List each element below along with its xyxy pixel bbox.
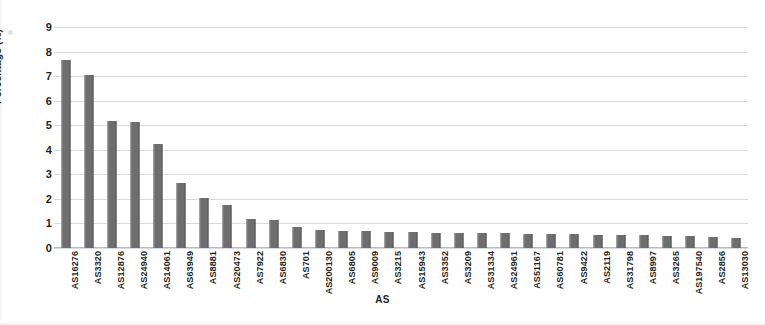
- bar-slot: [424, 27, 447, 248]
- y-axis-tick-label: 4: [46, 144, 52, 155]
- bar: [107, 121, 116, 248]
- bar-slot: [308, 27, 331, 248]
- y-axis-tick-label: 8: [46, 46, 52, 57]
- x-axis-tick-label: AS6830: [278, 251, 288, 284]
- y-axis-tick-label: 5: [46, 120, 52, 131]
- bar-slot: [216, 27, 239, 248]
- y-axis-tick-label: 9: [46, 22, 52, 33]
- bar: [454, 233, 463, 248]
- x-axis-tick-label: AS24940: [139, 251, 149, 289]
- bar: [385, 232, 394, 248]
- y-axis-tick-label: 0: [46, 243, 52, 254]
- bar-slot: [100, 27, 123, 248]
- x-axis-tick-label: AS60781: [555, 251, 565, 289]
- x-axis-tick-label: AS14061: [162, 251, 172, 289]
- bar-slot: [447, 27, 470, 248]
- bar-slot: [401, 27, 424, 248]
- bar-slot: [470, 27, 493, 248]
- bar-slot: [655, 27, 678, 248]
- bar-slot: [332, 27, 355, 248]
- bar-slot: [239, 27, 262, 248]
- bar: [84, 75, 93, 248]
- bar: [316, 230, 325, 248]
- x-axis-tick-label: AS51167: [532, 251, 542, 289]
- bar: [732, 238, 741, 248]
- bar: [431, 233, 440, 248]
- bar: [524, 234, 533, 248]
- y-axis-tick-label: 2: [46, 193, 52, 204]
- y-axis-tick-label: 3: [46, 169, 52, 180]
- bar: [154, 144, 163, 248]
- x-axis-tick-label: AS12876: [116, 251, 126, 289]
- bar-chart: Percentage (%) 0123456789 AS16276AS3320A…: [0, 0, 765, 325]
- bar: [501, 233, 510, 248]
- bar-slot: [563, 27, 586, 248]
- bar-slot: [517, 27, 540, 248]
- x-axis-tick-label: AS31334: [486, 251, 496, 289]
- x-axis-tick-label: AS13030: [740, 251, 750, 289]
- x-axis-tick-label: AS2856: [717, 251, 727, 284]
- bar-series: [54, 27, 748, 248]
- bar-slot: [632, 27, 655, 248]
- x-axis-tick-label: AS3215: [393, 251, 403, 284]
- bar-slot: [170, 27, 193, 248]
- bar-slot: [262, 27, 285, 248]
- bar: [477, 233, 486, 248]
- x-axis-tick-label: AS7922: [255, 251, 265, 284]
- x-axis-tick-label: AS3209: [463, 251, 473, 284]
- bar-slot: [355, 27, 378, 248]
- bar: [593, 235, 602, 249]
- bar: [616, 235, 625, 248]
- bar: [570, 234, 579, 248]
- bar-slot: [77, 27, 100, 248]
- x-axis-tick-label: AS3352: [440, 251, 450, 284]
- x-axis-tick-label: AS15943: [417, 251, 427, 289]
- y-axis-title: Percentage (%): [0, 29, 3, 104]
- x-axis-tick-label: AS16276: [70, 251, 80, 289]
- x-axis-tick-label: AS31798: [625, 251, 635, 289]
- bar: [686, 236, 695, 248]
- bar: [292, 227, 301, 248]
- bar: [362, 231, 371, 248]
- bar-slot: [586, 27, 609, 248]
- bar: [61, 60, 70, 248]
- x-axis-tick-label: AS3320: [93, 251, 103, 284]
- bar: [663, 236, 672, 248]
- x-axis-tick-label: AS8881: [208, 251, 218, 284]
- bar-slot: [494, 27, 517, 248]
- bar: [269, 220, 278, 248]
- bar: [246, 219, 255, 248]
- x-axis-tick-label: AS8997: [648, 251, 658, 284]
- bar: [547, 234, 556, 248]
- bar-slot: [378, 27, 401, 248]
- bar: [200, 198, 209, 248]
- gridline: [54, 248, 748, 249]
- x-axis-tick-label: AS9422: [579, 251, 589, 284]
- x-axis-tick-label: AS200130: [324, 251, 334, 294]
- bar-slot: [123, 27, 146, 248]
- x-axis-title: AS: [0, 294, 765, 305]
- bar-slot: [679, 27, 702, 248]
- bar: [339, 231, 348, 248]
- bar: [709, 237, 718, 248]
- x-axis-tick-label: AS701: [301, 251, 311, 279]
- bar: [408, 232, 417, 248]
- x-axis-tick-label: AS6805: [347, 251, 357, 284]
- x-axis-tick-label: AS24961: [509, 251, 519, 289]
- bar: [177, 183, 186, 248]
- x-axis-tick-label: AS63949: [185, 251, 195, 289]
- bar: [223, 205, 232, 248]
- bar: [639, 235, 648, 248]
- x-axis-tick-label: AS2119: [602, 251, 612, 284]
- y-axis-tick-label: 6: [46, 95, 52, 106]
- bar-slot: [725, 27, 748, 248]
- scan-artifact: [8, 30, 13, 35]
- y-axis-tick-labels: 0123456789: [30, 27, 52, 248]
- bar-slot: [54, 27, 77, 248]
- x-axis-tick-label: AS20473: [232, 251, 242, 289]
- x-axis-tick-label: AS3265: [671, 251, 681, 284]
- y-axis-tick-label: 1: [46, 218, 52, 229]
- x-axis-tick-label: AS9009: [370, 251, 380, 284]
- scan-edge-bottom: [0, 321, 765, 325]
- bar: [130, 122, 139, 248]
